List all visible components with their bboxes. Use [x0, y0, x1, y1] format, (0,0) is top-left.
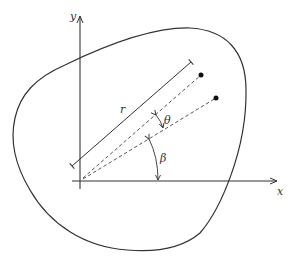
- theta-arc: [156, 115, 163, 128]
- y-axis-label: y: [69, 10, 77, 23]
- x-axis-label: x: [277, 185, 284, 198]
- dashed-line-upper: [83, 75, 201, 178]
- diagram-canvas: y x r θ β: [0, 0, 294, 262]
- region-boundary: [13, 28, 246, 251]
- beta-arc: [149, 139, 158, 180]
- beta-label: β: [159, 152, 166, 165]
- radius-label: r: [120, 103, 126, 116]
- upper-point: [199, 73, 204, 78]
- lower-point: [214, 96, 219, 101]
- radius-dimension-line: [72, 62, 191, 166]
- theta-label: θ: [164, 114, 171, 127]
